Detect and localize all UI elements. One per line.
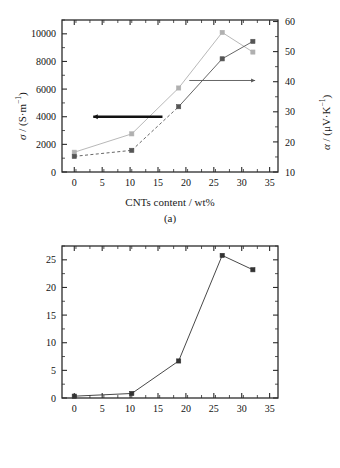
panel-a-plot: 0510152025303502000400060008000100001020… [0, 0, 340, 200]
panel-a-x-axis-label: CNTs content / wt% [0, 196, 340, 208]
panel-a-series-1-marker [72, 154, 76, 158]
panel-a-y2-tick-label: 40 [285, 76, 295, 87]
panel-b-plot-frame [62, 246, 278, 398]
panel-b-x-tick-label: 20 [181, 403, 191, 414]
panel-a-series-1-segment [74, 150, 131, 156]
panel-a-y2-tick-label: 30 [285, 106, 295, 117]
panel-a-y2-tick-label: 50 [285, 46, 295, 57]
panel-a-series-0-marker [72, 150, 76, 154]
panel-b-y-tick-label: 15 [46, 310, 56, 321]
panel-a-series-1-segment [222, 41, 253, 58]
panel-b-series-0-marker [220, 253, 224, 257]
panel-a-series-0-marker [220, 30, 224, 34]
panel-b-x-tick-label: 15 [153, 403, 163, 414]
panel-a-y2-tick-label: 10 [285, 167, 295, 178]
panel-b: 051015202530350510152025 α2σ / (μW·m−1·K… [0, 234, 340, 468]
panel-a-y-tick-label: 10000 [31, 28, 56, 39]
panel-a-y-tick-label: 2000 [36, 139, 56, 150]
panel-a-x-tick-label: 10 [125, 177, 135, 188]
panel-a: 0510152025303502000400060008000100001020… [0, 0, 340, 234]
panel-a-x-tick-label: 35 [265, 177, 275, 188]
panel-a-series-0-marker [251, 50, 255, 54]
panel-b-y-tick-label: 0 [51, 393, 56, 404]
panel-a-series-1-marker [177, 105, 181, 109]
panel-b-series-0-line [74, 255, 253, 396]
panel-b-plot: 051015202530350510152025 [0, 234, 340, 434]
panel-a-series-1-segment [179, 59, 223, 107]
panel-b-x-tick-label: 10 [125, 403, 135, 414]
panel-a-y-axis-label-left: σ / (S·m−1) [14, 92, 28, 140]
panel-b-series-0-marker [130, 391, 134, 395]
panel-a-y-tick-label: 0 [51, 167, 56, 178]
panel-a-y-tick-label: 4000 [36, 111, 56, 122]
panel-a-series-1-marker [220, 57, 224, 61]
panel-b-x-tick-label: 35 [265, 403, 275, 414]
panel-b-x-tick-label: 30 [237, 403, 247, 414]
panel-a-series-0-marker [177, 86, 181, 90]
panel-a-series-0-line [74, 32, 253, 152]
panel-a-alpha-arrow-head [251, 78, 255, 82]
figure-thermoelectric-cnt: 0510152025303502000400060008000100001020… [0, 0, 340, 468]
panel-b-series-0-marker [177, 359, 181, 363]
panel-b-y-tick-label: 10 [46, 337, 56, 348]
panel-b-x-tick-label: 25 [209, 403, 219, 414]
panel-b-y-tick-label: 25 [46, 254, 56, 265]
panel-a-series-1-segment [132, 107, 179, 151]
panel-a-sigma-arrow-head [93, 114, 98, 119]
panel-b-y-tick-label: 5 [51, 365, 56, 376]
panel-a-y-axis-label-right: α / (μV·K−1) [318, 95, 332, 150]
panel-a-x-tick-label: 25 [209, 177, 219, 188]
panel-b-series-0-marker [72, 394, 76, 398]
panel-b-x-tick-label: 0 [72, 403, 77, 414]
panel-a-x-tick-label: 5 [100, 177, 105, 188]
panel-b-series-0-marker [251, 268, 255, 272]
panel-b-y-tick-label: 20 [46, 282, 56, 293]
panel-a-series-0-marker [130, 132, 134, 136]
panel-a-y-tick-label: 6000 [36, 84, 56, 95]
panel-a-x-tick-label: 20 [181, 177, 191, 188]
panel-a-series-1-marker [130, 148, 134, 152]
panel-a-y2-tick-label: 20 [285, 137, 295, 148]
panel-a-x-tick-label: 0 [72, 177, 77, 188]
panel-a-y2-tick-label: 60 [285, 16, 295, 27]
panel-a-series-1-marker [251, 39, 255, 43]
panel-a-caption: (a) [0, 212, 340, 224]
panel-b-x-tick-label: 5 [100, 403, 105, 414]
panel-a-y-tick-label: 8000 [36, 56, 56, 67]
panel-a-x-tick-label: 30 [237, 177, 247, 188]
panel-a-x-tick-label: 15 [153, 177, 163, 188]
